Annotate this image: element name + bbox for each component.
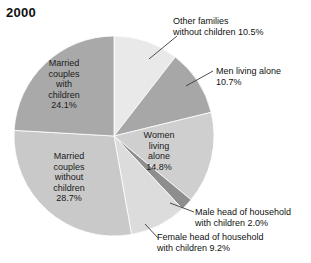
slice-label-married-couples-without-children: Married couples without children 28.7%: [36, 151, 102, 204]
callout-label-other-families-without-children: Other families without children 10.5%: [173, 16, 305, 38]
callout-label-female-head-of-household-with-children: Female head of household with children 9…: [157, 232, 311, 254]
chart-canvas: 2000 Married couples with children 24.1%…: [0, 0, 311, 263]
slice-label-married-couples-with-children: Married couples with children 24.1%: [32, 58, 96, 111]
callout-label-men-living-alone: Men living alone 10.7%: [216, 66, 308, 88]
callout-label-male-head-of-household-with-children: Male head of household with children 2.0…: [195, 207, 311, 229]
slice-label-women-living-alone: Women living alone 14.8%: [133, 130, 185, 172]
